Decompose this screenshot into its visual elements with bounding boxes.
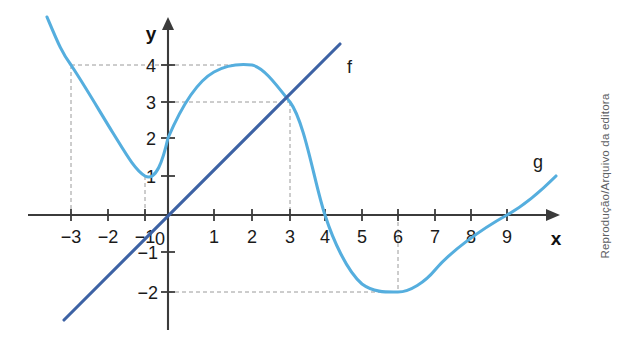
xtick-label-5: 5	[357, 227, 367, 247]
guide-lines	[71, 65, 398, 292]
xtick-label--2: −2	[98, 227, 119, 247]
axes	[28, 28, 546, 330]
xtick-label-9: 9	[502, 227, 512, 247]
label-g: g	[533, 152, 543, 172]
x-axis-label: x	[551, 228, 562, 249]
line-f	[64, 44, 340, 320]
xtick-label-6: 6	[393, 227, 403, 247]
ytick-label-4: 4	[146, 56, 156, 76]
image-credit: Reprodução/Arquivo da editora	[589, 0, 619, 352]
xtick-label-4: 4	[320, 227, 330, 247]
xtick-label-3: 3	[285, 227, 295, 247]
graph-figure: −3 −2 −1 0 1 2 3 4 5 6 7 8 9 4 3 2 1 −1 …	[0, 0, 621, 352]
xtick-label-1: 1	[209, 227, 219, 247]
ytick-label-3: 3	[146, 93, 156, 113]
cartesian-plot: −3 −2 −1 0 1 2 3 4 5 6 7 8 9 4 3 2 1 −1 …	[0, 0, 621, 352]
x-axis-arrowhead	[546, 209, 560, 221]
image-credit-text: Reprodução/Arquivo da editora	[598, 94, 610, 259]
y-axis-tick-labels: 4 3 2 1 −1 −2	[137, 56, 158, 303]
xtick-label-2: 2	[247, 227, 257, 247]
ytick-label--2: −2	[137, 283, 158, 303]
y-axis-label: y	[146, 23, 157, 44]
xtick-label-7: 7	[430, 227, 440, 247]
label-f: f	[347, 57, 353, 77]
ytick-label--1: −1	[137, 243, 158, 263]
ytick-label-2: 2	[146, 129, 156, 149]
xtick-label--3: −3	[61, 227, 82, 247]
x-axis-tick-labels: −3 −2 −1 0 1 2 3 4 5 6 7 8 9	[61, 227, 512, 249]
y-axis-arrowhead	[162, 17, 174, 30]
curve-g	[47, 17, 556, 292]
